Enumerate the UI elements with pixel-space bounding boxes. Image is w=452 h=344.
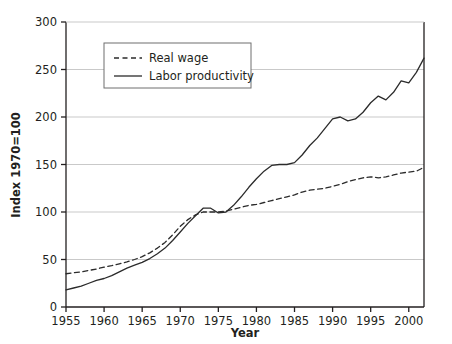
y-axis-title: Index 1970=100	[9, 112, 23, 218]
x-tick-label: 1965	[128, 314, 157, 328]
x-tick-label: 1990	[318, 314, 347, 328]
chart-legend: Real wage Labor productivity	[104, 43, 254, 88]
x-tick-label: 1955	[51, 314, 80, 328]
x-tick-label: 1985	[280, 314, 309, 328]
x-tick-label: 1975	[204, 314, 233, 328]
y-tick-label: 100	[35, 205, 57, 219]
x-tick-label: 1995	[356, 314, 385, 328]
legend-label-real-wage: Real wage	[149, 51, 208, 65]
legend-label-labor-productivity: Labor productivity	[149, 69, 254, 83]
line-chart: 050100150200250300 195519601965197019751…	[0, 0, 452, 344]
x-axis-title: Year	[230, 326, 260, 340]
y-tick-label: 250	[35, 63, 57, 77]
y-tick-label: 300	[35, 15, 57, 29]
y-tick-label: 0	[50, 300, 57, 314]
x-tick-label: 1960	[89, 314, 118, 328]
x-tick-label: 2000	[394, 314, 423, 328]
y-tick-label: 150	[35, 158, 57, 172]
x-tick-label: 1970	[166, 314, 195, 328]
y-tick-label: 200	[35, 110, 57, 124]
y-tick-label: 50	[42, 253, 57, 267]
chart-figure: 050100150200250300 195519601965197019751…	[0, 0, 452, 344]
